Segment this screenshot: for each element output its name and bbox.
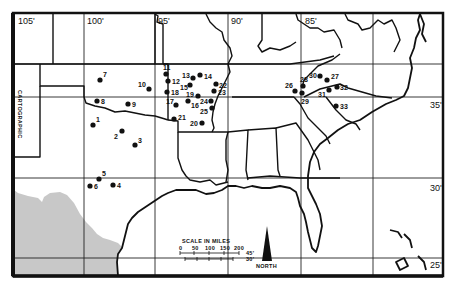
longitude-label: 95' bbox=[158, 16, 170, 26]
svg-text:9: 9 bbox=[132, 101, 136, 108]
svg-text:150: 150 bbox=[220, 245, 230, 251]
map-figure: 105' 100' 95' 90' 85' 35' 30' 25' CARTOG… bbox=[0, 0, 456, 283]
svg-text:5: 5 bbox=[102, 170, 106, 177]
svg-text:32: 32 bbox=[340, 84, 348, 91]
svg-text:8: 8 bbox=[101, 98, 105, 105]
svg-text:7: 7 bbox=[103, 71, 107, 78]
svg-text:15: 15 bbox=[180, 84, 188, 91]
svg-text:16: 16 bbox=[191, 102, 199, 109]
svg-text:31: 31 bbox=[318, 91, 326, 98]
longitude-label: 85' bbox=[305, 16, 317, 26]
svg-text:30: 30 bbox=[309, 72, 317, 79]
latitude-label: 35' bbox=[430, 100, 442, 110]
svg-text:1: 1 bbox=[96, 116, 100, 123]
svg-text:14: 14 bbox=[204, 73, 212, 80]
svg-text:22: 22 bbox=[219, 82, 227, 89]
svg-text:NORTH: NORTH bbox=[256, 263, 277, 269]
svg-text:26: 26 bbox=[285, 82, 293, 89]
svg-text:25: 25 bbox=[200, 108, 208, 115]
longitude-label: 100' bbox=[87, 16, 104, 26]
latitude-label: 25' bbox=[430, 260, 442, 270]
svg-text:3: 3 bbox=[138, 137, 142, 144]
svg-text:19: 19 bbox=[186, 91, 194, 98]
svg-text:10: 10 bbox=[138, 81, 146, 88]
svg-text:4: 4 bbox=[117, 182, 121, 189]
svg-text:24: 24 bbox=[200, 98, 208, 105]
svg-text:23: 23 bbox=[218, 89, 226, 96]
svg-text:18: 18 bbox=[171, 89, 179, 96]
svg-text:50: 50 bbox=[192, 245, 199, 251]
svg-text:0: 0 bbox=[179, 245, 182, 251]
edge-annotation: CARTOGRAPHIC bbox=[17, 90, 23, 138]
svg-text:12: 12 bbox=[172, 78, 180, 85]
longitude-label: 90' bbox=[231, 16, 243, 26]
svg-text:30': 30' bbox=[246, 256, 255, 262]
svg-text:17: 17 bbox=[166, 98, 174, 105]
svg-text:13: 13 bbox=[182, 72, 190, 79]
svg-text:29: 29 bbox=[301, 98, 309, 105]
svg-text:33: 33 bbox=[340, 103, 348, 110]
latitude-label: 30' bbox=[430, 183, 442, 193]
svg-text:2: 2 bbox=[114, 133, 118, 140]
svg-text:20: 20 bbox=[190, 120, 198, 127]
longitude-label: 105' bbox=[18, 16, 35, 26]
svg-text:200: 200 bbox=[234, 245, 244, 251]
svg-text:6: 6 bbox=[94, 183, 98, 190]
svg-text:100: 100 bbox=[205, 245, 215, 251]
svg-text:28: 28 bbox=[300, 76, 308, 83]
svg-text:SCALE IN MILES: SCALE IN MILES bbox=[182, 238, 230, 244]
svg-text:27: 27 bbox=[331, 73, 339, 80]
svg-text:21: 21 bbox=[178, 114, 186, 121]
svg-text:11: 11 bbox=[163, 64, 171, 71]
